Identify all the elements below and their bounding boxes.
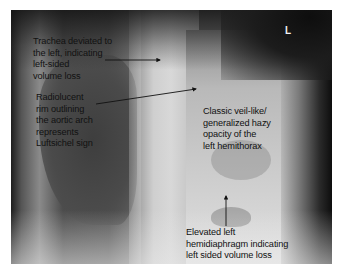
annotation-trachea: Trachea deviated to the left, indicating… [33, 36, 112, 82]
annotation-luftsichel: Radiolucent rim outlining the aortic arc… [36, 92, 93, 150]
annotation-veil-opacity: Classic veil-like/ generalized hazy opac… [203, 106, 271, 152]
luftsichel-arrow [96, 89, 196, 104]
annotation-hemidiaphragm: Elevated left hemidiaphragm indicating l… [186, 227, 288, 262]
